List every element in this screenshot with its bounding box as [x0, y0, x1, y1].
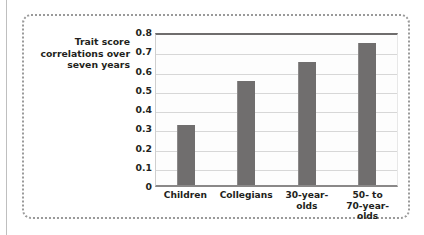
x-axis-category-label-line: 50- to — [337, 190, 398, 201]
y-axis-tick-label: 0.1 — [136, 163, 152, 172]
x-axis-category-label: Collegians — [216, 190, 277, 222]
y-axis-tick-label: 0.4 — [136, 105, 152, 114]
bar — [298, 62, 316, 185]
bar — [237, 81, 255, 185]
y-axis-caption: Trait scorecorrelations overseven years — [30, 36, 130, 71]
y-axis-caption-line: correlations over — [30, 48, 130, 60]
x-axis-category-label: 50- to70-year-olds — [337, 190, 398, 222]
bar-series — [156, 35, 397, 185]
bar — [177, 125, 195, 185]
x-axis-category-label-line: 70-year-olds — [337, 201, 398, 222]
y-axis-tick-label: 0.3 — [136, 125, 152, 134]
x-axis-category-label-line: olds — [277, 201, 338, 212]
x-axis-category-label: Children — [155, 190, 216, 222]
y-axis-tick-labels: 00.10.20.30.40.50.60.70.8 — [126, 35, 152, 187]
y-axis-caption-line: seven years — [30, 59, 130, 71]
bar-slot — [156, 35, 216, 185]
y-axis-tick-label: 0 — [146, 182, 152, 191]
bar-slot — [216, 35, 276, 185]
y-axis-tick-label: 0.8 — [136, 28, 152, 37]
x-axis-category-label: 30-year-olds — [277, 190, 338, 222]
y-axis-tick-label: 0.5 — [136, 86, 152, 95]
plot-area — [155, 33, 398, 187]
bar — [358, 43, 376, 185]
page-margin-rule — [6, 0, 7, 235]
x-axis-category-labels: ChildrenCollegians30-year-olds50- to70-y… — [155, 190, 398, 222]
y-axis-tick-label: 0.2 — [136, 144, 152, 153]
x-axis-category-label-line: Children — [155, 190, 216, 201]
y-axis-tick-label: 0.6 — [136, 67, 152, 76]
x-axis-category-label-line: Collegians — [216, 190, 277, 201]
y-axis-caption-line: Trait score — [30, 36, 130, 48]
y-axis-tick-label: 0.7 — [136, 48, 152, 57]
bar-slot — [277, 35, 337, 185]
x-axis-category-label-line: 30-year- — [277, 190, 338, 201]
bar-slot — [337, 35, 397, 185]
bar-chart-figure: Trait scorecorrelations overseven years … — [22, 14, 410, 219]
